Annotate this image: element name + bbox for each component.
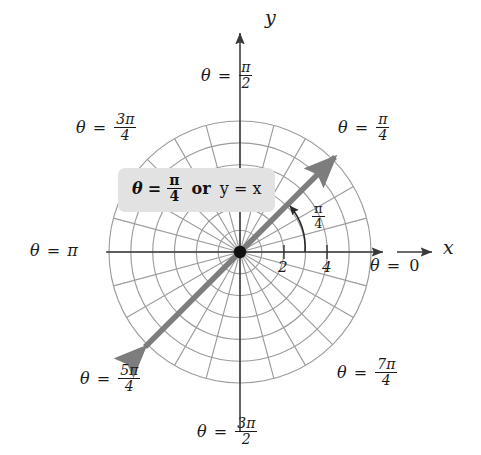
angle-label-pi: θ = π: [30, 243, 78, 259]
angle-label-pi-over-4: θ = π 4: [338, 113, 390, 144]
theta-symbol: θ: [197, 422, 207, 441]
equals-sign: =: [353, 118, 370, 137]
fraction: π 4: [167, 173, 181, 204]
fraction-denominator: 4: [118, 378, 140, 394]
fraction-numerator: 3π: [114, 112, 136, 127]
fraction-numerator: π: [239, 60, 252, 75]
fraction-numerator: π: [167, 173, 181, 188]
fraction: 3π 4: [114, 112, 136, 143]
x-tick-label-4: 4: [322, 258, 332, 276]
angle-label-3pi-over-2: θ = 3π 2: [197, 417, 258, 448]
equals-sign: =: [45, 241, 62, 260]
fraction: π 2: [239, 60, 252, 91]
fraction-denominator: 2: [235, 431, 257, 447]
theta-symbol: θ: [338, 118, 348, 137]
equals-sign: =: [212, 422, 229, 441]
fraction-numerator: π: [376, 112, 389, 127]
angle-label-pi-over-2: θ = π 2: [201, 61, 253, 92]
fraction-numerator: 7π: [375, 357, 397, 372]
fraction: π 4: [376, 112, 389, 143]
theta-symbol: θ: [76, 118, 86, 137]
x-tick-label-2: 2: [278, 258, 288, 276]
fraction-numerator: 5π: [118, 363, 140, 378]
theta-symbol: θ: [337, 363, 347, 382]
fraction: 5π 4: [118, 363, 140, 394]
equals-sign: =: [234, 179, 247, 198]
equals-sign: =: [95, 369, 112, 388]
x-axis-label: x: [443, 236, 454, 258]
equals-sign: =: [352, 363, 369, 382]
fraction-denominator: 4: [167, 188, 181, 204]
fraction-denominator: 4: [114, 127, 136, 143]
polar-diagram: y x θ = π 2 θ = 3π 4 θ = π 4 θ = π θ =: [0, 0, 481, 455]
y-variable: y: [220, 179, 229, 198]
equals-sign: =: [216, 66, 233, 85]
theta-symbol: θ: [370, 256, 380, 275]
pi-symbol: π: [67, 241, 78, 260]
fraction: π 4: [312, 202, 325, 231]
angle-label-3pi-over-4: θ = 3π 4: [76, 113, 137, 144]
y-axis-label: y: [265, 6, 276, 28]
fraction-numerator: 3π: [235, 416, 257, 431]
zero-value: 0: [407, 256, 421, 275]
theta-symbol: θ: [201, 66, 211, 85]
origin-point: [234, 246, 246, 258]
fraction-denominator: 4: [376, 127, 389, 143]
callout-theta-equals-pi-over-4: θ = π 4 or y = x: [118, 168, 275, 212]
equals-sign: =: [91, 118, 108, 137]
fraction-denominator: 4: [375, 372, 397, 388]
theta-symbol: θ: [80, 369, 90, 388]
x-variable: x: [252, 179, 261, 198]
fraction-numerator: π: [312, 202, 325, 216]
fraction: 3π 2: [235, 416, 257, 447]
theta-symbol: θ: [30, 241, 40, 260]
fraction-denominator: 2: [239, 75, 252, 91]
fraction: 7π 4: [375, 357, 397, 388]
angle-arc-label: π 4: [311, 203, 326, 232]
fraction-denominator: 4: [312, 216, 325, 231]
theta-symbol: θ: [132, 179, 143, 198]
equals-sign: =: [385, 256, 402, 275]
angle-label-7pi-over-4: θ = 7π 4: [337, 358, 398, 389]
angle-label-zero: θ = 0: [370, 258, 421, 274]
conjunction-or: or: [192, 179, 211, 198]
equals-sign: =: [148, 179, 161, 198]
angle-label-5pi-over-4: θ = 5π 4: [80, 364, 141, 395]
